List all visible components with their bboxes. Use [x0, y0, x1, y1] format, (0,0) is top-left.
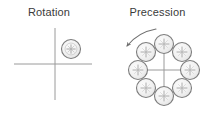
- precession-body-top-left: [137, 43, 156, 62]
- precession-body-bottom-right: [173, 79, 192, 98]
- rotation-panel: [14, 28, 92, 100]
- precession-body-bottom-left: [137, 79, 156, 98]
- precession-body-top: [155, 35, 174, 54]
- precession-body-top-right: [173, 43, 192, 62]
- rotation-axes: [14, 28, 92, 100]
- rotation-body-cross-marker: [66, 44, 75, 53]
- precession-panel: [127, 29, 200, 106]
- precession-body-left: [129, 61, 148, 80]
- rotation-body: [62, 40, 81, 59]
- figure-canvas: [0, 0, 211, 115]
- figure-root: Rotation Precession: [0, 0, 211, 115]
- precession-body-bottom: [155, 87, 174, 106]
- precession-body-right: [181, 61, 200, 80]
